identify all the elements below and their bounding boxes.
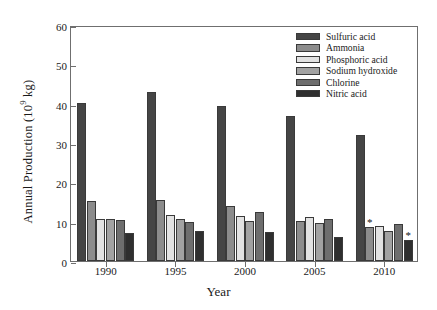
bar [245, 221, 254, 262]
x-axis-tick-mark [245, 262, 246, 267]
legend-item-label: Phosphoric acid [326, 54, 388, 65]
bar [116, 220, 125, 261]
legend-swatch [296, 44, 320, 52]
y-axis-tick-label: 20 [45, 179, 67, 190]
legend-item: Nitric acid [296, 88, 397, 99]
bar [217, 106, 226, 261]
bar-group [147, 25, 204, 261]
bar [404, 240, 413, 261]
legend-item: Sulfuric acid [296, 31, 397, 42]
y-axis-tick-mark [71, 145, 76, 146]
bar [226, 206, 235, 261]
bar [195, 231, 204, 261]
bar [87, 201, 96, 261]
y-axis-tick-label: 60 [45, 22, 67, 33]
legend-swatch [296, 56, 320, 64]
bar-chart-figure: Annual Production (109 kg) 0102030405060… [0, 0, 437, 310]
bar [394, 224, 403, 261]
y-axis-tick-label: 50 [45, 61, 67, 72]
bar [156, 200, 165, 261]
bar [384, 231, 393, 261]
bar [315, 223, 324, 261]
y-axis-tick-label: 10 [45, 218, 67, 229]
bar [286, 116, 295, 261]
y-axis-label-unit: kg) [21, 80, 35, 101]
y-axis-tick-label: 40 [45, 100, 67, 111]
x-axis-label: Year [0, 284, 437, 300]
bar [255, 212, 264, 261]
legend-swatch [296, 90, 320, 98]
legend-item: Sodium hydroxide [296, 65, 397, 76]
bar [96, 219, 105, 261]
y-axis-label-exponent: 9 [18, 100, 28, 104]
y-axis-label: Annual Production (109 kg) [18, 47, 35, 257]
data-point-annotation: * [405, 230, 411, 241]
x-axis-tick-mark [175, 262, 176, 267]
bar-group [217, 25, 274, 261]
y-axis-tick-label: 30 [45, 140, 67, 151]
legend-item-label: Nitric acid [326, 88, 367, 99]
y-axis-tick-mark [71, 27, 76, 28]
legend-swatch [296, 79, 320, 87]
legend-item: Phosphoric acid [296, 54, 397, 65]
bar [125, 233, 134, 261]
bar [356, 135, 365, 261]
bar [334, 237, 343, 261]
bar [176, 219, 185, 261]
chart-legend: Sulfuric acidAmmoniaPhosphoric acidSodiu… [296, 31, 397, 99]
bar [77, 103, 86, 261]
bar [185, 222, 194, 261]
x-axis-tick-mark [106, 262, 107, 267]
legend-swatch [296, 33, 320, 41]
bar [324, 219, 333, 261]
bar [166, 215, 175, 261]
data-point-annotation: * [367, 217, 373, 228]
legend-item: Chlorine [296, 77, 397, 88]
legend-item-label: Sulfuric acid [326, 31, 375, 42]
y-axis-label-text: Annual Production (10 [21, 105, 35, 224]
bar [236, 216, 245, 261]
legend-item-label: Ammonia [326, 42, 364, 53]
bar [296, 221, 305, 261]
legend-item: Ammonia [296, 42, 397, 53]
legend-swatch [296, 67, 320, 75]
bar [305, 217, 314, 261]
y-axis-tick-mark [71, 184, 76, 185]
bar-group [77, 25, 134, 261]
x-axis-tick-mark [384, 262, 385, 267]
legend-item-label: Chlorine [326, 77, 360, 88]
legend-item-label: Sodium hydroxide [326, 65, 397, 76]
y-axis-tick-label: 0 [45, 258, 67, 269]
y-axis-tick-mark [71, 66, 76, 67]
bar [265, 232, 274, 262]
bar [147, 92, 156, 261]
y-axis-tick-mark [71, 106, 76, 107]
bar [375, 226, 384, 261]
bar [365, 227, 374, 261]
y-axis-tick-mark [71, 263, 76, 264]
y-axis-tick-mark [71, 224, 76, 225]
bar [106, 219, 115, 261]
x-axis-tick-mark [315, 262, 316, 267]
